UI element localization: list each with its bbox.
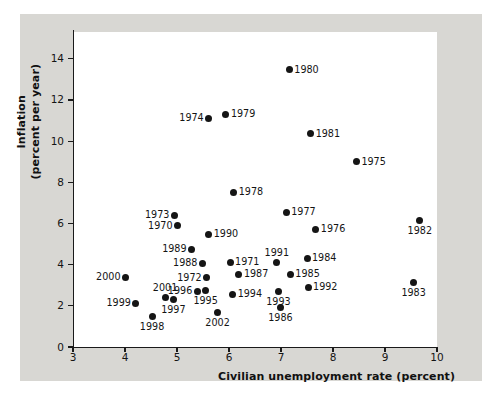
- x-axis-line: [72, 347, 438, 348]
- y-tick-label: 2: [48, 300, 64, 311]
- data-point: [277, 304, 284, 311]
- data-point: [122, 274, 129, 281]
- data-point-label: 1983: [401, 288, 425, 298]
- data-point-label: 1998: [140, 322, 164, 332]
- data-point-label: 1986: [268, 313, 292, 323]
- data-point: [235, 271, 242, 278]
- data-point: [287, 271, 294, 278]
- data-point: [171, 212, 178, 219]
- data-point-label: 1989: [162, 244, 186, 254]
- data-point: [275, 288, 282, 295]
- y-tick-mark: [68, 264, 73, 265]
- data-point-label: 1999: [106, 298, 130, 308]
- y-tick-label-wrap: 14: [44, 53, 64, 64]
- data-point-label: 1984: [312, 253, 336, 263]
- data-point: [170, 296, 177, 303]
- data-point: [149, 313, 156, 320]
- data-point: [229, 291, 236, 298]
- data-point-label: 1973: [145, 210, 169, 220]
- data-point-label: 1985: [295, 269, 319, 279]
- data-point-label: 1988: [173, 258, 197, 268]
- y-tick-label: 8: [48, 177, 64, 188]
- y-tick-label-wrap: 2: [44, 300, 64, 311]
- y-tick-mark: [68, 99, 73, 100]
- data-point-label: 1975: [361, 157, 385, 167]
- data-point: [286, 66, 293, 73]
- x-tick-label: 6: [216, 352, 242, 363]
- data-point-label: 1972: [177, 273, 201, 283]
- data-point: [227, 259, 234, 266]
- data-point: [205, 231, 212, 238]
- data-point: [273, 259, 280, 266]
- x-tick-label: 9: [372, 352, 398, 363]
- x-tick-label: 4: [112, 352, 138, 363]
- y-axis-title-line1: Inflation: [15, 47, 29, 197]
- y-tick-mark: [68, 141, 73, 142]
- data-point-label: 2000: [96, 272, 120, 282]
- x-tick-label: 3: [60, 352, 86, 363]
- data-point: [194, 288, 201, 295]
- data-point: [214, 309, 221, 316]
- data-point-label: 1991: [265, 248, 289, 258]
- y-tick-label-wrap: 4: [44, 259, 64, 270]
- data-point: [202, 287, 209, 294]
- data-point-label: 1990: [214, 229, 238, 239]
- data-point-label: 1976: [321, 224, 345, 234]
- data-point-label: 1974: [179, 113, 203, 123]
- y-tick-label: 12: [48, 94, 64, 105]
- data-point: [353, 158, 360, 165]
- x-axis-title: Civilian unemployment rate (percent): [218, 370, 455, 383]
- data-point-label: 1992: [313, 282, 337, 292]
- y-axis-title: Inflation (percent per year): [15, 47, 43, 197]
- data-point: [410, 279, 417, 286]
- y-tick-label: 0: [48, 342, 64, 353]
- data-point-label: 1987: [244, 269, 268, 279]
- y-tick-label: 14: [48, 53, 64, 64]
- data-point: [188, 246, 195, 253]
- y-tick-label: 10: [48, 136, 64, 147]
- y-axis-line: [73, 30, 74, 348]
- y-axis-title-line2: (percent per year): [29, 47, 43, 197]
- data-point: [162, 294, 169, 301]
- scatter-plot-figure: 02468101214 345678910 Inflation (percent…: [0, 0, 491, 410]
- y-tick-mark: [68, 58, 73, 59]
- y-tick-label-wrap: 12: [44, 94, 64, 105]
- y-tick-label: 6: [48, 218, 64, 229]
- y-tick-label: 4: [48, 259, 64, 270]
- data-point-label: 1970: [148, 221, 172, 231]
- data-point: [174, 222, 181, 229]
- x-tick-label: 5: [164, 352, 190, 363]
- data-point-label: 1980: [294, 65, 318, 75]
- x-tick-label: 10: [424, 352, 450, 363]
- data-point-label: 1982: [408, 226, 432, 236]
- y-tick-mark: [68, 223, 73, 224]
- y-tick-mark: [68, 182, 73, 183]
- y-tick-label-wrap: 8: [44, 177, 64, 188]
- data-point: [304, 255, 311, 262]
- data-point-label: 1979: [231, 109, 255, 119]
- x-tick-label: 7: [268, 352, 294, 363]
- data-point: [199, 260, 206, 267]
- data-point-label: 1994: [238, 289, 262, 299]
- data-point-label: 1971: [235, 257, 259, 267]
- data-point: [230, 189, 237, 196]
- data-point-label: 1977: [291, 207, 315, 217]
- data-point-label: 1995: [193, 296, 217, 306]
- x-tick-label: 8: [320, 352, 346, 363]
- data-point-label: 2001: [153, 283, 177, 293]
- data-point-label: 1978: [239, 187, 263, 197]
- y-tick-mark: [68, 305, 73, 306]
- y-tick-label-wrap: 0: [44, 342, 64, 353]
- y-tick-label-wrap: 6: [44, 218, 64, 229]
- data-point: [305, 284, 312, 291]
- data-point-label: 2002: [205, 318, 229, 328]
- data-point-label: 1981: [316, 129, 340, 139]
- data-point-label: 1997: [161, 305, 185, 315]
- data-point: [283, 209, 290, 216]
- y-tick-label-wrap: 10: [44, 136, 64, 147]
